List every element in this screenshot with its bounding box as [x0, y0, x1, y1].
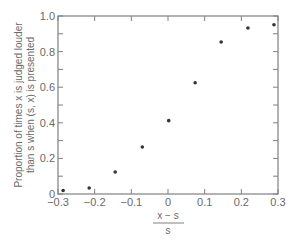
y-tick-label: 0: [49, 188, 55, 200]
x-tick-label: 0.2: [234, 196, 249, 208]
data-point: [219, 40, 223, 44]
data-point: [193, 81, 197, 85]
y-tick-labels: 00.20.40.60.81.0: [40, 10, 55, 200]
y-tick-label: 1.0: [40, 10, 55, 22]
data-point: [141, 145, 145, 149]
data-point: [87, 186, 91, 190]
y-tick-label: 0.6: [40, 81, 55, 93]
y-axis-title-line-1: Proportion of times x is judged louder: [13, 22, 24, 188]
x-tick-label: 0: [165, 196, 171, 208]
x-tick-label: 0.1: [197, 196, 212, 208]
plot-frame: [58, 16, 278, 194]
data-point: [272, 23, 276, 27]
data-point: [246, 26, 250, 30]
data-point: [167, 119, 171, 123]
y-tick-label: 0.2: [40, 152, 55, 164]
x-axis-title-denominator: s: [166, 225, 171, 236]
axis-ticks: [58, 16, 278, 194]
x-tick-label: −0.1: [120, 196, 142, 208]
y-tick-label: 0.4: [40, 117, 55, 129]
data-points: [61, 23, 275, 192]
x-tick-label: 0.3: [270, 196, 285, 208]
data-point: [113, 170, 117, 174]
x-axis-title-numerator: x − s: [157, 210, 178, 221]
y-axis-title: Proportion of times x is judged louder t…: [13, 22, 36, 188]
scatter-chart: −0.3−0.2−0.100.10.20.3 00.20.40.60.81.0 …: [0, 0, 296, 243]
x-tick-label: −0.2: [84, 196, 106, 208]
x-tick-labels: −0.3−0.2−0.100.10.20.3: [47, 196, 286, 208]
plot-border: [58, 16, 278, 194]
x-axis-title: x − s s: [153, 210, 184, 236]
y-axis-title-line-2: than s when (s, x) is presented: [25, 37, 36, 173]
data-point: [61, 189, 65, 193]
y-tick-label: 0.8: [40, 46, 55, 58]
